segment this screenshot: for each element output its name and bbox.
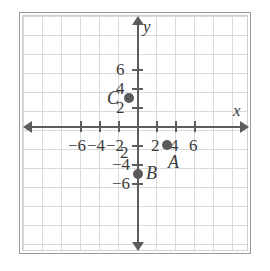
x-tick--2 [118, 121, 120, 132]
x-axis-line [26, 126, 246, 128]
axes: −6 −4 −2 2 4 6 6 4 2 2 −4 −6 x y A B C [20, 13, 252, 255]
point-c-dot[interactable] [124, 93, 134, 103]
coordinate-plane-figure: −6 −4 −2 2 4 6 6 4 2 2 −4 −6 x y A B C [0, 0, 270, 271]
y-tick-2 [132, 107, 143, 109]
y-tick-label--4: −4 [112, 156, 130, 173]
y-tick--2 [132, 145, 143, 147]
point-b-dot[interactable] [133, 169, 143, 179]
x-tick--6 [80, 121, 82, 132]
y-axis-line [137, 19, 139, 249]
x-tick-label-6: 6 [189, 137, 198, 154]
y-tick-label--6: −6 [112, 175, 130, 192]
y-tick--4 [132, 164, 143, 166]
point-b-label: B [146, 163, 157, 184]
x-axis-label: x [233, 101, 241, 121]
point-c-label: C [107, 88, 119, 109]
point-a-dot[interactable] [162, 140, 172, 150]
y-tick--6 [132, 183, 143, 185]
x-tick-label-2: 2 [151, 137, 160, 154]
x-axis-arrow-left [23, 121, 32, 133]
y-tick-6 [132, 69, 143, 71]
x-axis-arrow-right [240, 121, 249, 133]
y-axis-label: y [143, 17, 151, 37]
x-tick--4 [99, 121, 101, 132]
x-tick-2 [156, 121, 158, 132]
x-tick-label--6: −6 [68, 137, 86, 154]
x-tick-6 [194, 121, 196, 132]
y-tick-label-6: 6 [116, 61, 125, 78]
x-tick-4 [175, 121, 177, 132]
y-axis-arrow-down [132, 242, 144, 251]
plot-frame: −6 −4 −2 2 4 6 6 4 2 2 −4 −6 x y A B C [19, 12, 251, 254]
y-tick-4 [132, 88, 143, 90]
point-a-label: A [168, 152, 179, 173]
x-tick-label--4: −4 [87, 137, 105, 154]
